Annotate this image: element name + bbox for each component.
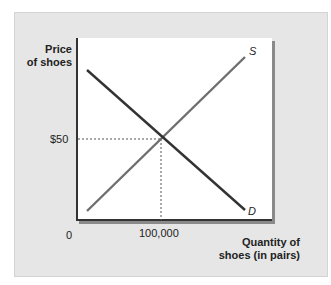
- demand-label: D: [248, 205, 256, 217]
- y-axis-label-line2: of shoes: [16, 56, 72, 69]
- x-axis-label-line2: shoes (in pairs): [200, 249, 300, 262]
- x-tick-100000: 100,000: [139, 227, 179, 240]
- supply-label: S: [249, 45, 256, 57]
- y-tick-50: $50: [50, 133, 68, 146]
- y-axis-label: Price of shoes: [16, 43, 72, 69]
- x-axis-label-line1: Quantity of: [200, 236, 300, 249]
- origin-label: 0: [66, 229, 72, 242]
- x-axis-label: Quantity of shoes (in pairs): [200, 236, 300, 262]
- y-axis-label-line1: Price: [16, 43, 72, 56]
